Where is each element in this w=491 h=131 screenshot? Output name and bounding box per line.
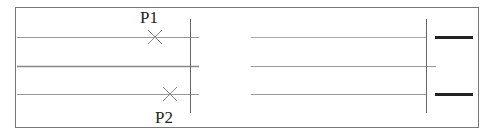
point-p1: P1 xyxy=(140,8,162,44)
left-panel: P1P2 xyxy=(17,8,199,127)
point-label: P1 xyxy=(140,8,158,27)
right-panel xyxy=(251,19,473,113)
point-p2: P2 xyxy=(155,87,177,127)
point-label: P2 xyxy=(155,108,173,127)
diagram-canvas: P1P2 xyxy=(0,0,491,131)
diagram-frame xyxy=(16,8,479,128)
